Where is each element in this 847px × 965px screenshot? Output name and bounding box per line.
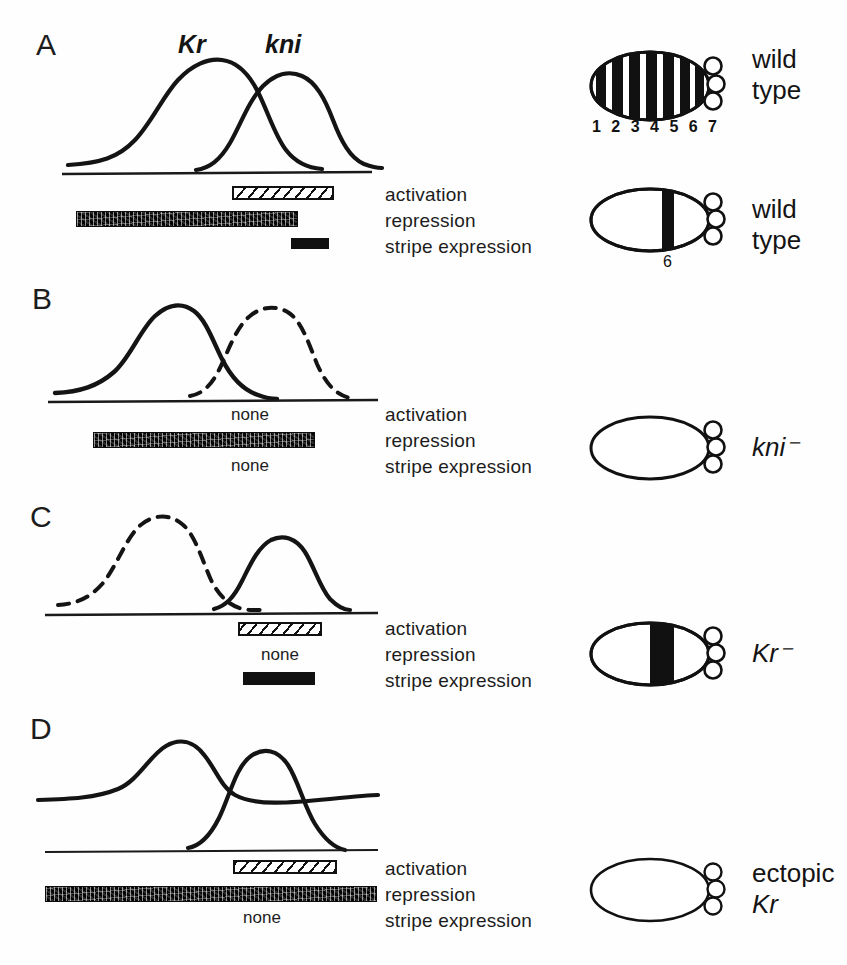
embryo-stripes-group [596, 50, 704, 124]
curve-kr-panel-c [58, 517, 268, 611]
curve-kni-panel-c [214, 537, 350, 610]
panel-letter-c: C [30, 500, 52, 534]
pole-cell-c-bot [705, 662, 722, 679]
embryo-stripe-6-band [662, 186, 674, 256]
pole-cell-a1-mid [708, 76, 725, 93]
baseline-panel-c [45, 613, 378, 615]
none-activation-panel-b: none [215, 405, 285, 425]
embryo-wild-type-stripe6 [591, 186, 725, 256]
phenotype-a2-line2: type [752, 225, 801, 256]
phenotype-label-c: Kr⁻ [752, 638, 792, 669]
embryo-wide-stripe-band [650, 620, 674, 690]
pole-cell-a2-top [705, 194, 722, 211]
phenotype-a1-line2: type [752, 75, 801, 106]
row-label-stripe-expression-b: stripe expression [385, 456, 532, 478]
embryo-stripe6-number: 6 [663, 253, 672, 271]
curve-kni-panel-a [196, 73, 382, 170]
pole-cell-b-bot [705, 456, 722, 473]
pole-cell-a2-bot [705, 228, 722, 245]
panel-d-graph [38, 742, 378, 852]
curve-kr-panel-d-ectopic [38, 742, 378, 803]
phenotype-label-a2: wild type [752, 194, 801, 255]
phenotype-label-d: ectopic Kr [752, 858, 834, 919]
pole-cell-a1-top [705, 58, 722, 75]
panel-letter-d: D [30, 712, 52, 746]
curve-kr-panel-b [55, 305, 277, 399]
bar-repression-panel-a [76, 211, 298, 227]
phenotype-b-line1: kni⁻ [752, 432, 799, 463]
pole-cell-d-mid [708, 881, 725, 898]
none-stripe-expression-panel-d: none [227, 908, 297, 928]
baseline-panel-d [45, 850, 378, 852]
pole-cell-c-mid [708, 645, 725, 662]
pole-cell-d-bot [705, 898, 722, 915]
figure-vector-layer [0, 0, 847, 965]
figure-root: A B C D Kr kni activation repression str… [0, 0, 847, 965]
panel-c-graph [45, 517, 378, 616]
row-label-activation-b: activation [385, 404, 467, 426]
curve-kni-panel-d [188, 751, 345, 850]
row-label-stripe-expression-d: stripe expression [385, 910, 532, 932]
gene-label-kr: Kr [178, 30, 206, 59]
embryo-ectopic-kr [591, 859, 725, 921]
row-label-repression-a: repression [385, 210, 476, 232]
panel-letter-a: A [36, 28, 57, 62]
pole-cell-d-top [705, 864, 722, 881]
row-label-repression-d: repression [385, 884, 476, 906]
embryo-kr-minus [591, 620, 725, 690]
panel-b-graph [48, 305, 378, 402]
phenotype-d-line1: ectopic [752, 858, 834, 889]
phenotype-d-line2: Kr [752, 889, 834, 920]
row-label-repression-b: repression [385, 430, 476, 452]
pole-cell-b-top [705, 422, 722, 439]
none-repression-panel-c: none [245, 645, 315, 665]
row-label-stripe-expression-c: stripe expression [385, 670, 532, 692]
bar-repression-panel-b [93, 432, 315, 448]
pole-cell-a2-mid [708, 211, 725, 228]
none-stripe-expression-panel-b: none [215, 456, 285, 476]
panel-letter-b: B [32, 282, 53, 316]
curve-kr-panel-a [68, 60, 322, 169]
phenotype-a2-line1: wild [752, 194, 801, 225]
curve-kni-panel-b [190, 308, 350, 398]
phenotype-a1-line1: wild [752, 44, 801, 75]
bar-stripe-expression-panel-c [243, 672, 315, 685]
bar-activation-panel-d [233, 860, 337, 874]
row-label-repression-c: repression [385, 644, 476, 666]
bar-repression-panel-d [45, 886, 377, 902]
pole-cell-b-mid [708, 439, 725, 456]
pole-cell-c-top [705, 628, 722, 645]
row-label-stripe-expression-a: stripe expression [385, 236, 532, 258]
panel-a-graph [62, 60, 382, 174]
pole-cell-a1-bot [705, 93, 722, 110]
phenotype-label-b: kni⁻ [752, 432, 799, 463]
row-label-activation-a: activation [385, 184, 467, 206]
phenotype-label-a1: wild type [752, 44, 801, 105]
embryo-wild-type-striped [591, 50, 725, 124]
embryo-kni-minus [591, 417, 725, 479]
bar-activation-panel-c [238, 622, 322, 636]
bar-activation-panel-a [232, 186, 334, 200]
row-label-activation-c: activation [385, 618, 467, 640]
gene-label-kni: kni [265, 30, 301, 59]
baseline-panel-b [48, 400, 378, 402]
baseline-panel-a [62, 172, 372, 174]
embryo-stripe-numbers: 1 2 3 4 5 6 7 [592, 118, 720, 136]
phenotype-c-line1: Kr⁻ [752, 638, 792, 669]
row-label-activation-d: activation [385, 858, 467, 880]
bar-stripe-expression-panel-a [291, 238, 329, 249]
